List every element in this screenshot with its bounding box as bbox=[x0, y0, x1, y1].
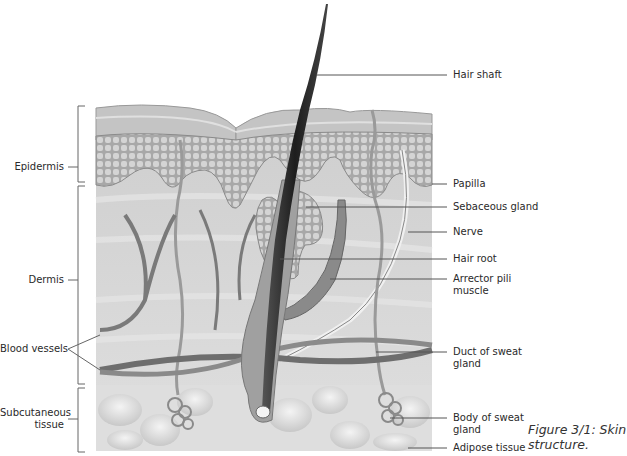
label-hair-root: Hair root bbox=[453, 253, 497, 265]
label-subcutaneous-line2: tissue bbox=[0, 419, 64, 431]
label-arrector-line1: Arrector pili bbox=[453, 273, 511, 285]
label-papilla: Papilla bbox=[453, 178, 486, 190]
label-subcutaneous-tissue: Subcutaneous tissue bbox=[0, 407, 64, 431]
label-arrector-line2: muscle bbox=[453, 285, 511, 297]
label-nerve: Nerve bbox=[453, 226, 483, 238]
label-duct-line2: gland bbox=[453, 358, 522, 370]
caption-line2: structure. bbox=[528, 437, 627, 452]
label-subcutaneous-line1: Subcutaneous bbox=[0, 407, 64, 419]
label-body-of-sweat-gland: Body of sweat gland bbox=[453, 412, 524, 436]
layer-brackets bbox=[68, 106, 100, 452]
skin-structure-illustration bbox=[0, 0, 627, 456]
label-adipose-tissue: Adipose tissue bbox=[453, 442, 525, 454]
figure-caption: Figure 3/1: Skin structure. bbox=[528, 422, 627, 452]
label-blood-vessels: Blood vessels bbox=[0, 343, 64, 355]
label-duct-line1: Duct of sweat bbox=[453, 346, 522, 358]
label-hair-shaft: Hair shaft bbox=[453, 69, 502, 81]
label-epidermis: Epidermis bbox=[0, 161, 64, 173]
label-body-line2: gland bbox=[453, 424, 524, 436]
label-sebaceous-gland: Sebaceous gland bbox=[453, 201, 538, 213]
label-dermis: Dermis bbox=[0, 274, 64, 286]
label-body-line1: Body of sweat bbox=[453, 412, 524, 424]
caption-line1: Figure 3/1: Skin bbox=[528, 422, 627, 437]
label-arrector-pili-muscle: Arrector pili muscle bbox=[453, 273, 511, 297]
label-duct-of-sweat-gland: Duct of sweat gland bbox=[453, 346, 522, 370]
